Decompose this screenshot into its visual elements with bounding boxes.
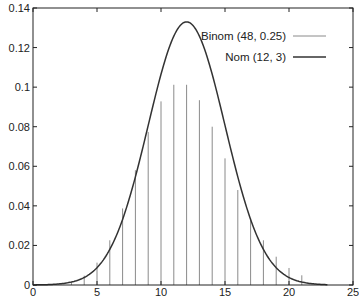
- chart-canvas: 0510152025 00.020.040.060.080.10.120.14 …: [0, 0, 359, 296]
- y-tick-label: 0.04: [9, 200, 30, 212]
- legend-label-normal: Nom (12, 3): [225, 51, 286, 63]
- x-tick-label: 5: [94, 286, 100, 296]
- legend: Binom (48, 0.25) Nom (12, 3): [201, 30, 326, 63]
- y-tick-label: 0.08: [9, 121, 30, 133]
- y-tick-label: 0.02: [9, 239, 30, 251]
- y-tick-label: 0.1: [15, 81, 30, 93]
- x-tick-label: 15: [219, 286, 231, 296]
- y-tick-label: 0.12: [9, 42, 30, 54]
- x-tick-label: 10: [155, 286, 167, 296]
- y-axis: 00.020.040.060.080.10.120.14: [9, 2, 353, 291]
- x-axis: 0510152025: [30, 8, 359, 296]
- y-tick-label: 0.06: [9, 160, 30, 172]
- x-tick-label: 25: [347, 286, 359, 296]
- y-tick-label: 0.14: [9, 2, 30, 14]
- y-tick-label: 0: [24, 279, 30, 291]
- x-tick-label: 20: [283, 286, 295, 296]
- x-tick-label: 0: [30, 286, 36, 296]
- plot-frame: [33, 8, 353, 285]
- legend-label-binomial: Binom (48, 0.25): [201, 30, 286, 42]
